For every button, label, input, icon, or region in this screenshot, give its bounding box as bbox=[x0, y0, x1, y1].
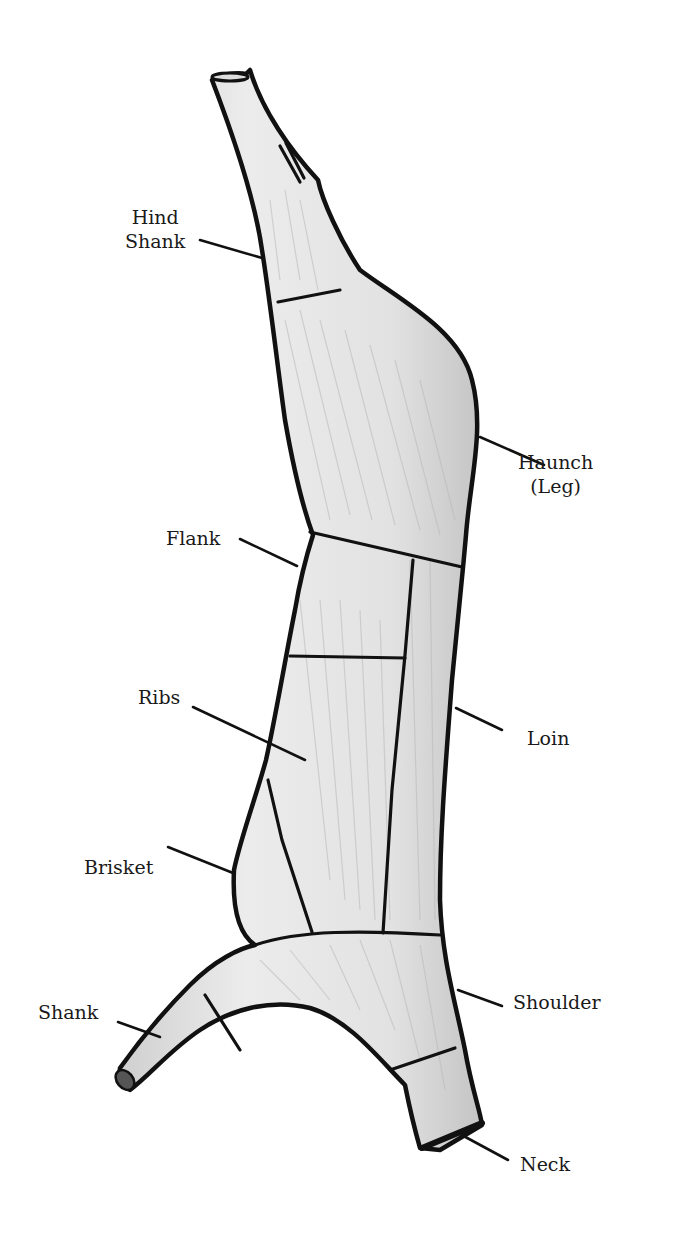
label-loin: Loin bbox=[527, 726, 569, 750]
leader-shoulder bbox=[458, 990, 502, 1006]
label-shoulder: Shoulder bbox=[513, 990, 601, 1014]
label-shank: Shank bbox=[38, 1000, 98, 1024]
label-flank: Flank bbox=[166, 526, 220, 550]
leader-neck bbox=[458, 1133, 508, 1160]
leader-flank bbox=[240, 539, 297, 566]
carcass-diagram bbox=[0, 0, 687, 1247]
label-ribs: Ribs bbox=[138, 685, 180, 709]
leader-brisket bbox=[168, 847, 233, 873]
label-neck: Neck bbox=[520, 1152, 570, 1176]
label-haunch: Haunch (Leg) bbox=[518, 450, 593, 498]
label-hind-shank: Hind Shank bbox=[125, 205, 185, 253]
leader-loin bbox=[456, 708, 502, 730]
cut-flank-ribs bbox=[290, 656, 405, 658]
label-brisket: Brisket bbox=[84, 855, 153, 879]
leader-hind-shank bbox=[200, 240, 262, 258]
bone-end-top bbox=[212, 73, 248, 81]
